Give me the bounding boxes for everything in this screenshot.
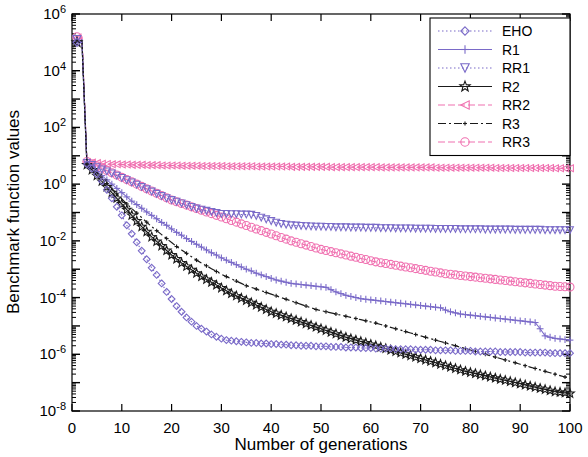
- x-tick-label: 90: [512, 419, 529, 436]
- x-tick-label: 10: [113, 419, 130, 436]
- x-tick-label: 80: [462, 419, 479, 436]
- y-tick-label: 102: [43, 116, 66, 135]
- x-tick-label: 40: [263, 419, 280, 436]
- x-tick-label: 30: [213, 419, 230, 436]
- figure-container: 010203040506070809010010610410210010-210…: [0, 0, 588, 457]
- x-tick-label: 70: [412, 419, 429, 436]
- y-tick-label: 10-6: [40, 343, 66, 362]
- x-axis-label: Number of generations: [235, 435, 408, 454]
- x-tick-label: 100: [557, 419, 582, 436]
- legend-label-r1: R1: [502, 42, 520, 58]
- legend-label-rr1: RR1: [502, 60, 530, 76]
- legend-label-rr3: RR3: [502, 134, 530, 150]
- legend-label-eho: EHO: [502, 23, 532, 39]
- x-tick-label: 20: [163, 419, 180, 436]
- chart-svg: 010203040506070809010010610410210010-210…: [0, 0, 588, 457]
- legend-label-r3: R3: [502, 116, 520, 132]
- x-tick-label: 0: [68, 419, 76, 436]
- y-tick-label: 10-4: [40, 287, 66, 306]
- y-tick-label: 10-8: [40, 400, 66, 419]
- y-axis-label: Benchmark function values: [4, 110, 23, 314]
- x-tick-label: 50: [313, 419, 330, 436]
- y-tick-label: 104: [43, 60, 66, 79]
- y-tick-label: 10-2: [40, 230, 66, 249]
- y-tick-label: 100: [43, 173, 66, 192]
- legend-label-r2: R2: [502, 79, 520, 95]
- y-tick-label: 106: [43, 3, 66, 22]
- legend: EHOR1RR1R2RR2R3RR3: [430, 18, 570, 156]
- x-tick-label: 60: [362, 419, 379, 436]
- legend-label-rr2: RR2: [502, 97, 530, 113]
